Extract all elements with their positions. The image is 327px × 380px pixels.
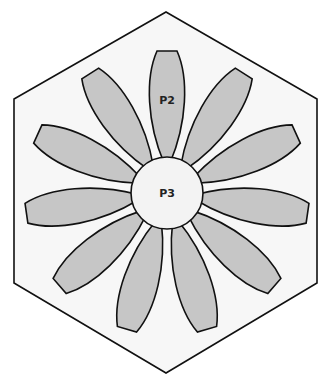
pattern-diagram: P3 P2 — [0, 0, 327, 380]
petal-label: P2 — [159, 94, 175, 107]
center-label: P3 — [159, 187, 175, 200]
